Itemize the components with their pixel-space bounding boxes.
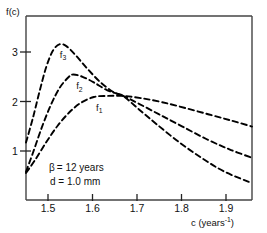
- annotation-diameter: d = 1.0 mm: [50, 176, 100, 187]
- figure-container: 3 2 1 1.5 1.6 1.7 1.8 1.9 f(c) c (years-…: [0, 0, 267, 233]
- y-tick-label-1: 1: [12, 145, 18, 157]
- x-tick-label-1_6: 1.6: [85, 202, 100, 214]
- chart-canvas: 3 2 1 1.5 1.6 1.7 1.8 1.9 f(c) c (years-…: [0, 0, 267, 233]
- x-axis-label-base: c (years: [191, 217, 225, 228]
- beta-symbol: β: [49, 162, 55, 173]
- curve-label-f3: f3: [60, 49, 67, 61]
- x-axis-label-close: ): [231, 217, 234, 228]
- plot-annotations: β= 12 years d = 1.0 mm: [49, 162, 104, 187]
- x-tick-label-1_5: 1.5: [41, 202, 56, 214]
- x-tick-label-1_7: 1.7: [130, 202, 145, 214]
- curve-label-f1: f1: [96, 102, 103, 114]
- curve-label-f2: f2: [76, 80, 83, 92]
- annotation-beta: β= 12 years: [49, 162, 104, 173]
- x-tick-label-1_9: 1.9: [219, 202, 234, 214]
- svg-text:c (years-1): c (years-1): [191, 216, 234, 228]
- beta-value: = 12 years: [57, 162, 104, 173]
- y-tick-label-3: 3: [12, 46, 18, 58]
- x-axis-label: c (years-1): [191, 216, 234, 228]
- y-tick-label-2: 2: [12, 96, 18, 108]
- x-tick-label-1_8: 1.8: [174, 202, 189, 214]
- y-axis-label: f(c): [6, 6, 20, 17]
